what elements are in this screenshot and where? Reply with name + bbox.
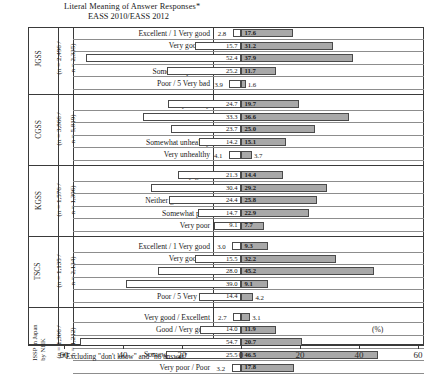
bar-zone: 14.44.2 xyxy=(213,290,424,303)
bar-eass-2012: 31.2 xyxy=(241,42,333,50)
value-label-eass-2010: 52.4 xyxy=(224,55,239,62)
chart-row: Excellent / 1 Very good17.62.8 xyxy=(28,27,424,40)
bar-zone: 14.722.9 xyxy=(213,207,424,220)
value-label-eass-2010: 2.7 xyxy=(218,314,227,321)
chart-row: Good / Very good14.011.9 xyxy=(28,323,424,336)
group-name: CGSS xyxy=(30,98,46,161)
chart-title-block: Literal Meaning of Answer Responses* EAS… xyxy=(64,2,404,21)
bar-eass-2010: 39.0 xyxy=(126,280,241,288)
bar-eass-2010: 24.4 xyxy=(169,196,241,204)
bar-zone: 33.336.6 xyxy=(213,111,424,124)
bar-eass-2012: 25.0 xyxy=(241,125,315,133)
bar-eass-2012: 45.2 xyxy=(241,267,374,275)
bar-eass-2012 xyxy=(241,151,252,159)
bar-zone: 17.62.8 xyxy=(213,27,424,40)
bar-zone: 24.425.8 xyxy=(213,194,424,207)
chart-row: Fair / 439.09.1 xyxy=(28,278,424,291)
bar-eass-2010: 15.7 xyxy=(195,42,241,50)
category-label: Somewhat poor xyxy=(73,207,213,220)
group-separator-line xyxy=(28,307,424,308)
bar-eass-2010: 14.2 xyxy=(199,138,241,146)
group-separator-line xyxy=(28,165,424,166)
category-label: Poor / 5 Very bad xyxy=(73,77,213,90)
category-label: Very good / Excellent xyxy=(73,311,213,324)
axis-tick-label: 0 xyxy=(239,350,244,360)
bar-eass-2012 xyxy=(241,80,246,88)
chart-row: Very good / Excellent2.73.1 xyxy=(28,311,424,324)
chart-row: Very good21.314.4 xyxy=(28,169,424,182)
bar-eass-2010: 25.2 xyxy=(167,67,241,75)
chart-row: Good / 352.437.9 xyxy=(28,52,424,65)
bar-eass-2010: 14.7 xyxy=(198,209,241,217)
bar-zone: 9.17.7 xyxy=(213,219,424,232)
axis-tick-label: 20 xyxy=(296,350,305,360)
value-label-eass-2012: 7.7 xyxy=(243,222,254,229)
value-label-eass-2010: 4.1 xyxy=(214,151,223,158)
bar-zone: 25.211.7 xyxy=(213,65,424,78)
category-label: Very unhealthy xyxy=(73,148,213,161)
bar-zone: 4.13.7 xyxy=(213,148,424,161)
bar-eass-2010 xyxy=(233,29,241,37)
page-title: Literal Meaning of Answer Responses* xyxy=(64,2,404,11)
axis-tick xyxy=(241,345,242,349)
bar-eass-2010: 15.5 xyxy=(195,255,241,263)
value-label-eass-2012: 29.2 xyxy=(243,185,258,192)
bar-eass-2012 xyxy=(241,293,253,301)
survey-group: Very healthy24.719.7Somewhat healthy33.3… xyxy=(28,98,424,161)
bar-eass-2012: 15.1 xyxy=(241,138,286,146)
group-name: KGSS xyxy=(30,169,46,232)
value-label-eass-2012: 14.4 xyxy=(243,172,258,179)
group-sample-size: (n = 1,135 /n = 2,134) xyxy=(45,240,73,303)
bar-zone: 3.91.6 xyxy=(213,77,424,90)
category-label: Very good / 2 xyxy=(73,253,213,266)
group-sample-size: (n = 3,866 /n = 5,819) xyxy=(45,98,73,161)
axis-tick xyxy=(64,345,65,349)
bar-eass-2012: 19.7 xyxy=(241,100,299,108)
bar-eass-2010: 30.4 xyxy=(151,184,241,192)
group-separator xyxy=(28,161,424,169)
value-label-eass-2012: 11.7 xyxy=(243,68,257,75)
bar-zone: 21.314.4 xyxy=(213,169,424,182)
bar-eass-2010: 23.7 xyxy=(171,125,241,133)
group-sample-size: (n = 2,496 /n = 2,335) xyxy=(45,27,73,90)
bar-eass-2010: 9.1 xyxy=(214,222,241,230)
bar-eass-2012: 22.9 xyxy=(241,209,309,217)
value-label-eass-2010: 24.7 xyxy=(224,101,239,108)
bar-eass-2012: 32.2 xyxy=(241,255,336,263)
value-label-eass-2010: 14.2 xyxy=(224,139,239,146)
chart-row: Very unhealthy4.13.7 xyxy=(28,148,424,161)
chart-row: Very healthy24.719.7 xyxy=(28,98,424,111)
bar-eass-2012: 36.6 xyxy=(241,113,349,121)
bar-eass-2012: 29.2 xyxy=(241,184,327,192)
axis-tick xyxy=(123,345,124,349)
survey-group: Very good21.314.4Somewhat good30.429.2Ne… xyxy=(28,169,424,232)
value-label-eass-2012: 37.9 xyxy=(243,55,258,62)
category-label: Good / Very good xyxy=(73,323,213,336)
chart-row: Good / 328.045.2 xyxy=(28,265,424,278)
bar-eass-2012: 17.6 xyxy=(241,29,293,37)
axis-tick-label: 60 xyxy=(414,350,423,360)
bar-eass-2012: 37.9 xyxy=(241,54,353,62)
chart-row: Somewhat poor / 425.211.7 xyxy=(28,65,424,78)
value-label-eass-2012: 15.1 xyxy=(243,139,258,146)
bar-eass-2010: 21.3 xyxy=(178,171,241,179)
bar-eass-2010: 28.0 xyxy=(158,267,241,275)
bar-eass-2010: 24.7 xyxy=(168,100,241,108)
bar-eass-2010: 14.0 xyxy=(200,326,241,334)
bar-zone: 23.725.0 xyxy=(213,123,424,136)
chart-row: Somewhat unhealthy14.215.1 xyxy=(28,136,424,149)
chart-subtitle: EASS 2010/EASS 2012 xyxy=(64,12,404,21)
bar-eass-2010 xyxy=(233,313,241,321)
bar-eass-2010 xyxy=(229,151,241,159)
axis-tick xyxy=(182,345,183,349)
category-label: Very good / 2 xyxy=(73,40,213,53)
value-label-eass-2012: 9.3 xyxy=(243,243,254,250)
value-label-eass-2010: 14.4 xyxy=(224,293,239,300)
bar-zone: 24.719.7 xyxy=(213,98,424,111)
chart-root: Literal Meaning of Answer Responses* EAS… xyxy=(0,0,432,386)
bar-zone: 14.215.1 xyxy=(213,136,424,149)
chart-row: Very good / 215.731.2 xyxy=(28,40,424,53)
bar-eass-2010 xyxy=(229,80,241,88)
chart-row: Poor / 5 Very bad3.91.6 xyxy=(28,77,424,90)
bar-eass-2010 xyxy=(232,242,241,250)
